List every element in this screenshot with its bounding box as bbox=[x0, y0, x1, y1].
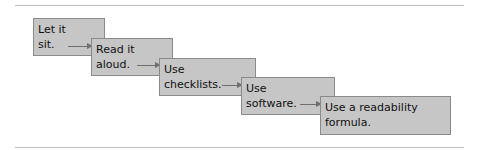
step-line-1: Use a readability bbox=[325, 100, 450, 115]
step-line-1: Use bbox=[164, 62, 255, 77]
bottom-rule bbox=[15, 147, 464, 148]
arrow-icon bbox=[137, 65, 160, 66]
step-line-1: Read it bbox=[96, 42, 172, 57]
step-line-1: Use bbox=[246, 81, 334, 96]
step-line-1: Let it bbox=[38, 22, 104, 37]
arrow-icon bbox=[222, 85, 242, 86]
arrow-icon bbox=[300, 104, 321, 105]
step-line-2: formula. bbox=[325, 115, 450, 130]
step-use-readability-formula: Use a readability formula. bbox=[320, 96, 451, 135]
arrow-icon bbox=[68, 46, 92, 47]
top-rule bbox=[15, 5, 464, 6]
